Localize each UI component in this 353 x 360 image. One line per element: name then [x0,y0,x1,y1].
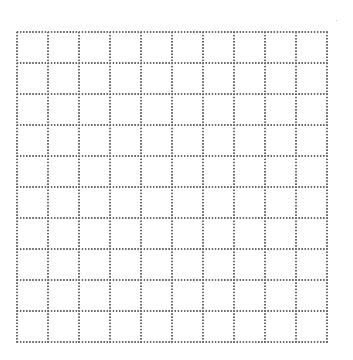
grid-vertical-line [202,31,204,343]
grid-vertical-line [140,31,142,343]
grid-vertical-line [264,31,266,343]
grid-vertical-line [295,31,297,343]
dotted-grid [16,31,328,343]
grid-vertical-line [171,31,173,343]
stray-speck [336,20,337,21]
grid-vertical-line [109,31,111,343]
grid-vertical-line [47,31,49,343]
grid-vertical-line [326,31,328,343]
grid-vertical-line [233,31,235,343]
grid-vertical-line [78,31,80,343]
grid-vertical-line [16,31,18,343]
